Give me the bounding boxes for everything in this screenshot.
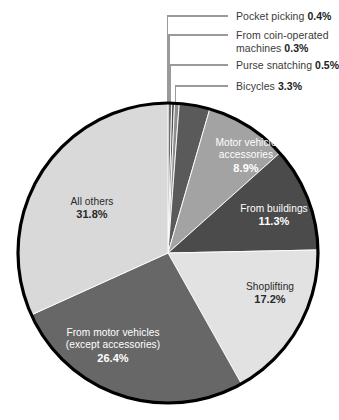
callout-purse-snatching: Purse snatching 0.5% <box>236 59 339 72</box>
slice-label-motor-vehicle-accessories-pct: 8.9% <box>196 162 296 174</box>
slice-label-from-buildings-pct: 11.3% <box>224 215 324 227</box>
slice-label-motor-vehicle-accessories-line2: accessories <box>196 149 296 161</box>
slice-label-all-others-pct: 31.8% <box>44 208 140 220</box>
callout-pocket-picking: Pocket picking 0.4% <box>236 10 332 23</box>
slice-label-shoplifting: Shoplifting 17.2% <box>222 281 318 306</box>
callout-pocket-picking-text: Pocket picking <box>236 10 307 22</box>
slice-label-from-buildings: From buildings 11.3% <box>224 203 324 228</box>
callout-labels: Pocket picking 0.4% From coin-operated m… <box>0 0 334 110</box>
slice-label-from-buildings-line1: From buildings <box>224 203 324 215</box>
callout-coin-operated-machines-pct: 0.3% <box>284 42 308 54</box>
slice-label-from-motor-vehicles-line1: From motor vehicles <box>47 327 179 339</box>
callout-bicycles-pct: 3.3% <box>278 80 302 92</box>
slice-label-from-motor-vehicles: From motor vehicles (except accessories)… <box>47 327 179 364</box>
slice-label-shoplifting-pct: 17.2% <box>222 293 318 305</box>
slice-label-all-others: All others 31.8% <box>44 196 140 221</box>
slice-label-motor-vehicle-accessories-line1: Motor vehicle <box>196 137 296 149</box>
slice-label-motor-vehicle-accessories: Motor vehicle accessories 8.9% <box>196 137 296 174</box>
callout-bicycles: Bicycles 3.3% <box>236 80 302 93</box>
slice-label-from-motor-vehicles-pct: 26.4% <box>47 352 179 364</box>
slice-label-all-others-line1: All others <box>44 196 140 208</box>
callout-coin-operated-machines: From coin-operated machines 0.3% <box>236 29 329 54</box>
callout-purse-snatching-pct: 0.5% <box>315 59 339 71</box>
callout-coin-operated-machines-line2: machines <box>236 42 284 54</box>
callout-bicycles-text: Bicycles <box>236 80 278 92</box>
callout-coin-operated-machines-line1: From coin-operated <box>236 29 329 41</box>
slice-label-from-motor-vehicles-line2: (except accessories) <box>47 339 179 351</box>
slice-label-shoplifting-line1: Shoplifting <box>222 281 318 293</box>
callout-pocket-picking-pct: 0.4% <box>307 10 331 22</box>
callout-purse-snatching-text: Purse snatching <box>236 59 315 71</box>
